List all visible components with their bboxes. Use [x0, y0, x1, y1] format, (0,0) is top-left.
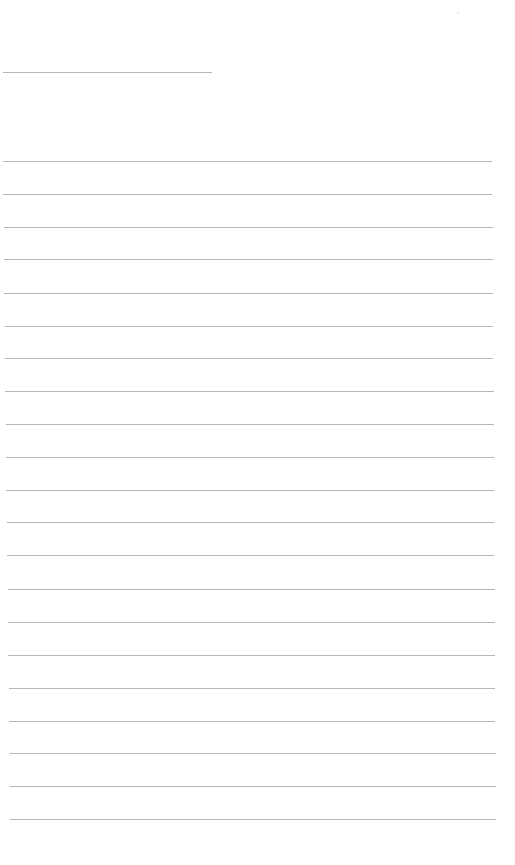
ruled-line: [8, 589, 495, 590]
ruled-line: [4, 259, 493, 260]
ruled-line: [5, 326, 493, 327]
ruled-line: [6, 457, 494, 458]
lined-page: [0, 0, 515, 865]
ruled-line: [9, 688, 495, 689]
header-line: [3, 72, 212, 73]
ruled-line: [10, 753, 496, 754]
ruled-line: [6, 490, 494, 491]
ruled-line: [8, 655, 495, 656]
scan-speck: [457, 12, 459, 14]
ruled-line: [10, 786, 496, 787]
ruled-line: [3, 161, 492, 162]
ruled-line: [7, 522, 494, 523]
ruled-line: [3, 194, 492, 195]
ruled-line: [7, 555, 494, 556]
ruled-line: [6, 424, 494, 425]
ruled-line: [4, 293, 493, 294]
ruled-line: [5, 358, 493, 359]
ruled-line: [4, 227, 493, 228]
ruled-line: [8, 622, 495, 623]
ruled-line: [5, 391, 494, 392]
ruled-line: [10, 819, 496, 820]
ruled-line: [9, 721, 495, 722]
